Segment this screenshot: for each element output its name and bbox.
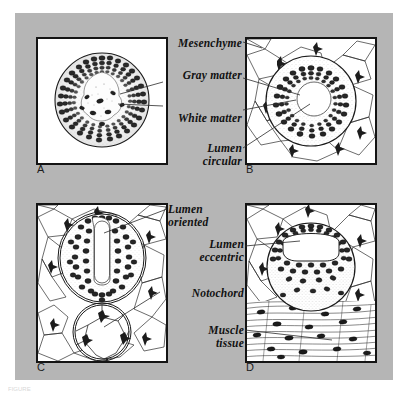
panel-d bbox=[245, 203, 377, 363]
figure-caption: FIGURE bbox=[8, 386, 400, 402]
panel-letter-a: A bbox=[37, 163, 45, 175]
label-notochord: Notochord bbox=[160, 287, 244, 300]
figure-root: A B C D Mesenchyme Gray matter White mat… bbox=[0, 0, 407, 404]
label-muscle-tissue: Muscle tissue bbox=[166, 324, 244, 349]
panel-letter-d: D bbox=[246, 361, 254, 373]
panel-a bbox=[36, 37, 168, 165]
label-lumen-eccentric: Lumen eccentric bbox=[166, 238, 244, 263]
label-lumen-circular: Lumen circular bbox=[164, 142, 242, 167]
panel-c bbox=[36, 203, 168, 363]
label-lumen-oriented: Lumen oriented bbox=[168, 203, 248, 228]
label-white-matter: White matter bbox=[164, 112, 242, 125]
panel-letter-b: B bbox=[246, 163, 254, 175]
label-gray-matter: Gray matter bbox=[164, 69, 242, 82]
panel-b bbox=[245, 37, 377, 165]
label-mesenchyme: Mesenchyme bbox=[166, 37, 242, 50]
panel-letter-c: C bbox=[37, 361, 45, 373]
